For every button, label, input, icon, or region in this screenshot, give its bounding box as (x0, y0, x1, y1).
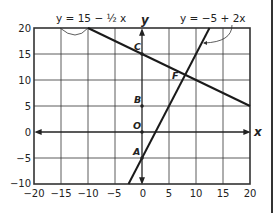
point-a-dot (140, 156, 144, 160)
point-label-a: A (132, 146, 140, 157)
y-tick-20: 20 (18, 23, 31, 34)
x-tick-0: 0 (140, 188, 146, 199)
callout-arrow-line1 (60, 28, 88, 35)
point-label-c: C (134, 41, 141, 52)
x-tick-5: 5 (166, 188, 172, 199)
y-tick-5: 5 (25, 101, 31, 112)
callout-arrowhead-line2 (203, 41, 207, 45)
y-tick-10: 10 (18, 75, 31, 86)
x-tick-neg5: −5 (107, 188, 122, 199)
y-axis-label: y (141, 13, 150, 27)
equation-label-line1: y = 15 − ½ x (56, 12, 126, 24)
x-tick-neg20: −20 (23, 188, 44, 199)
x-tick-10: 10 (190, 188, 203, 199)
point-label-o: O (133, 120, 141, 131)
x-tick-neg10: −10 (77, 188, 98, 199)
coordinate-plane-figure: C B O A F y x y = 15 − ½ x y = −5 + 2x 2… (0, 0, 278, 213)
x-tick-neg15: −15 (50, 188, 71, 199)
point-label-b: B (134, 94, 141, 105)
equation-label-line2: y = −5 + 2x (180, 12, 246, 24)
x-tick-15: 15 (217, 188, 230, 199)
x-axis-label: x (253, 125, 263, 139)
y-tick-neg5: −5 (16, 153, 31, 164)
y-tick-labels: 20 15 10 5 0 −5 −10 (10, 23, 31, 189)
x-tick-20: 20 (244, 188, 257, 199)
point-c-dot (140, 52, 144, 56)
y-tick-15: 15 (18, 49, 31, 60)
point-label-f: F (172, 70, 179, 81)
x-tick-labels: −20 −15 −10 −5 0 5 10 15 20 (23, 188, 256, 199)
page-edge-divider (271, 0, 273, 213)
graph-svg: C B O A F y x y = 15 − ½ x y = −5 + 2x 2… (0, 0, 278, 213)
y-tick-0: 0 (25, 127, 31, 138)
